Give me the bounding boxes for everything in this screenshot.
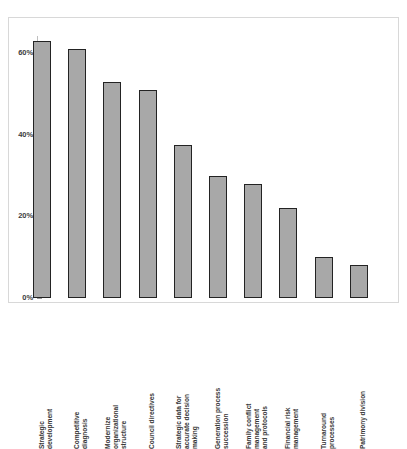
bar[interactable] (315, 257, 333, 298)
bar[interactable] (350, 265, 368, 298)
bar[interactable] (209, 176, 227, 298)
x-axis-label-line: Strategic (38, 377, 46, 449)
bar[interactable] (68, 49, 86, 298)
x-axis-label-text: Council directives (148, 377, 156, 449)
x-axis-label-text: Generation processsuccession (214, 377, 229, 449)
x-axis-label-text: Strategic data foraccurate decisionmakin… (175, 377, 198, 449)
x-axis-label-rotated: Strategicdevelopment (42, 377, 53, 449)
bar[interactable] (139, 90, 157, 298)
bar[interactable] (174, 145, 192, 298)
x-axis-label-line: accurate decision (183, 377, 191, 449)
x-axis-label-text: Strategicdevelopment (38, 377, 53, 449)
x-axis-label-rotated: Generation processsuccession (218, 377, 229, 449)
x-axis-label-line: succession (222, 377, 230, 449)
x-axis-label-line: and protocols (261, 377, 269, 449)
x-axis-label-rotated: Strategic data foraccurate decisionmakin… (183, 377, 198, 449)
bar[interactable] (103, 82, 121, 298)
x-axis-label-line: Patrimony division (359, 377, 367, 449)
bar[interactable] (279, 208, 297, 298)
x-axis-label-line: diagnosis (81, 377, 89, 449)
x-axis-label-line: Turnaround (320, 377, 328, 449)
x-axis-label-line: Generation process (214, 377, 222, 449)
x-axis-label-text: Financial riskmanagement (285, 377, 300, 449)
x-axis-label-line: development (46, 377, 54, 449)
x-axis-label-line: management (292, 377, 300, 449)
x-axis-label-line: Council directives (148, 377, 156, 449)
x-axis-label-rotated: Patrimony division (359, 377, 367, 449)
x-axis-label-line: making (190, 377, 198, 449)
x-axis-label-rotated: Family conflictmanagementand protocols (253, 377, 268, 449)
x-axis-label-text: Turnaroundprocesses (320, 377, 335, 449)
x-axis-label-text: Modernizeorganizationalstructure (105, 377, 128, 449)
x-axis-label-rotated: Council directives (148, 377, 156, 449)
x-axis-label-text: Family conflictmanagementand protocols (246, 377, 269, 449)
x-axis-label-text: Competitivediagnosis (73, 377, 88, 449)
x-axis-label-text: Patrimony division (359, 377, 367, 449)
x-axis-label-rotated: Modernizeorganizationalstructure (112, 377, 127, 449)
x-axis-label-line: processes (327, 377, 335, 449)
x-axis-category-labels: StrategicdevelopmentCompetitivediagnosis… (0, 305, 407, 379)
x-axis-label-rotated: Financial riskmanagement (288, 377, 299, 449)
x-axis-label-line: structure (120, 377, 128, 449)
bar[interactable] (33, 41, 51, 298)
bar[interactable] (244, 184, 262, 298)
x-axis-label-rotated: Competitivediagnosis (77, 377, 88, 449)
x-axis-label-rotated: Turnaroundprocesses (324, 377, 335, 449)
x-axis-label-line: Strategic data for (175, 377, 183, 449)
